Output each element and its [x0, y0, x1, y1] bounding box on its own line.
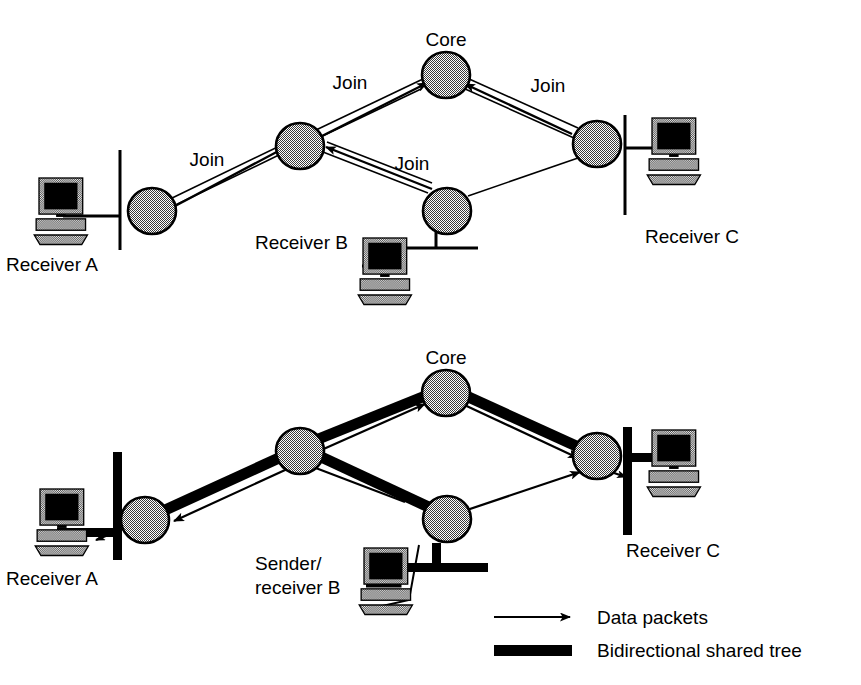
router-node-core-bottom	[422, 370, 470, 416]
router-node-core	[422, 52, 470, 98]
router-node-receiver-c	[573, 121, 621, 167]
workstation-receiver-b	[358, 238, 411, 305]
router-node-receiver-c-bottom	[573, 433, 621, 479]
workstation-sender-b-bottom	[359, 548, 412, 615]
router-node-receiver-a-bottom	[121, 497, 169, 543]
legend-label-bidirectional-shared-tree: Bidirectional shared tree	[597, 640, 802, 661]
join-label-b-to-mid: Join	[395, 153, 430, 174]
host-label-sender-b-line1: Sender/	[255, 553, 322, 574]
lan-segment-receiver-a-bottom	[113, 452, 122, 560]
host-label-receiver-c-top: Receiver C	[645, 226, 739, 247]
join-label-mid-to-core: Join	[333, 72, 368, 93]
join-label-a-to-mid: Join	[190, 149, 225, 170]
host-label-receiver-a-bottom: Receiver A	[6, 568, 98, 589]
core-label-bottom: Core	[425, 347, 466, 368]
router-node-receiver-a	[128, 188, 176, 234]
router-node-sender-b-bottom	[423, 496, 471, 542]
legend-label-data-packets: Data packets	[597, 607, 708, 628]
router-node-mid	[276, 123, 324, 169]
canvas-background	[0, 0, 861, 685]
network-diagram-figure: Core Join Join Join Join Receiver A Rece…	[0, 0, 861, 685]
lan-riser-sender-b-bottom	[432, 543, 441, 567]
lan-segment-receiver-c-bottom	[623, 427, 632, 535]
diagram-canvas: Core Join Join Join Join Receiver A Rece…	[0, 0, 861, 685]
workstation-receiver-c	[647, 118, 700, 185]
host-label-receiver-b-top: Receiver B	[255, 232, 348, 253]
router-node-mid-bottom	[276, 428, 324, 474]
join-label-right-to-core: Join	[531, 75, 566, 96]
workstation-receiver-a-bottom	[35, 489, 88, 556]
router-node-receiver-b	[423, 188, 471, 234]
core-label-top: Core	[425, 29, 466, 50]
workstation-receiver-c-bottom	[647, 430, 700, 497]
legend-thick-bar-icon	[494, 645, 572, 656]
host-label-receiver-c-bottom: Receiver C	[626, 540, 720, 561]
host-label-sender-b-line2: receiver B	[255, 577, 341, 598]
workstation-receiver-a	[34, 178, 87, 245]
host-label-receiver-a-top: Receiver A	[6, 254, 98, 275]
